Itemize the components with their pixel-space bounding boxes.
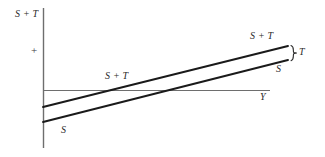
positive-axis-marker: + [31,45,37,56]
supply-tax-line-diagram: S + T + S + T S + T S S T Y [0,0,325,157]
diagram-canvas [0,0,325,157]
upper-line-end-label: S + T [250,31,273,41]
lower-line-start-label: S [61,125,66,135]
y-axis-label: S + T [15,9,38,19]
lower-line-end-label: S [276,64,281,74]
line-s-plus-t [43,46,288,107]
brace-gap-label: T [299,47,305,57]
gap-brace-icon [291,46,296,61]
upper-line-inline-label: S + T [105,71,128,81]
x-axis-label: Y [260,92,266,102]
